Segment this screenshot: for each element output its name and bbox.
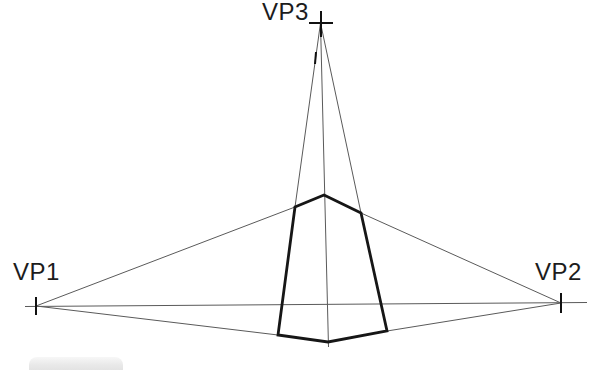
vp2-to-box-bottom-right	[387, 303, 561, 331]
left-line-blemish	[315, 52, 316, 64]
vp1-to-box-top-left	[36, 207, 295, 306]
vp2-to-box-top-right	[361, 213, 561, 303]
construction-lines-svg	[0, 0, 596, 370]
label-vp1: VP1	[13, 260, 60, 284]
vp3-to-box-top-left	[295, 23, 321, 207]
horizon-line	[25, 303, 587, 307]
vp1-to-box-bottom-left	[36, 306, 278, 335]
perspective-figure: VP1 VP2 VP3	[0, 0, 596, 370]
vp3-to-box-top-right	[321, 23, 362, 213]
vp3-center-axis	[321, 23, 329, 347]
label-vp2: VP2	[535, 260, 582, 284]
cropped-ui-remnant	[29, 357, 123, 370]
label-vp3: VP3	[262, 0, 309, 24]
